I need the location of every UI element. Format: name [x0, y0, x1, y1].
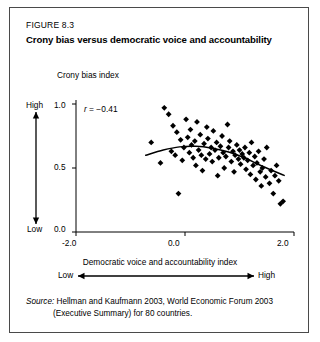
correlation-equals: = [87, 104, 97, 114]
y-tick-0-5: 0.5 [54, 162, 66, 172]
source-line-1: Hellman and Kaufmann 2003, World Economi… [57, 297, 273, 306]
y-axis-title: Crony bias index [57, 70, 119, 80]
source-label: Source: [26, 297, 54, 306]
figure-number: FIGURE 8.3 [26, 20, 74, 30]
plot-axes [72, 100, 294, 236]
correlation-value: −0.41 [96, 104, 117, 114]
scatter-points-group [148, 105, 286, 207]
figure-panel: FIGURE 8.3 Crony bias versus democratic … [9, 7, 309, 333]
trend-line [146, 146, 284, 175]
correlation-annotation: r = −0.41 [84, 104, 118, 114]
x-axis-high-label: High [258, 270, 275, 280]
x-tick-2: 2.0 [277, 238, 289, 248]
y-tick-1: 1.0 [54, 100, 66, 110]
y-axis-high-label: High [26, 100, 43, 110]
y-axis-low-label: Low [27, 224, 42, 234]
x-tick-0: 0.0 [168, 238, 180, 248]
figure-title: Crony bias versus democratic voice and a… [26, 34, 272, 45]
x-axis-low-label: Low [58, 270, 73, 280]
x-axis-title: Democratic voice and accountability inde… [10, 257, 310, 267]
y-tick-0: 0.0 [54, 224, 66, 234]
source-line-2: (Executive Summary) for 80 countries. [26, 308, 298, 320]
direction-arrows [33, 112, 254, 279]
x-tick-neg2: -2.0 [62, 238, 76, 248]
source-note: Source: Hellman and Kaufmann 2003, World… [26, 296, 298, 319]
